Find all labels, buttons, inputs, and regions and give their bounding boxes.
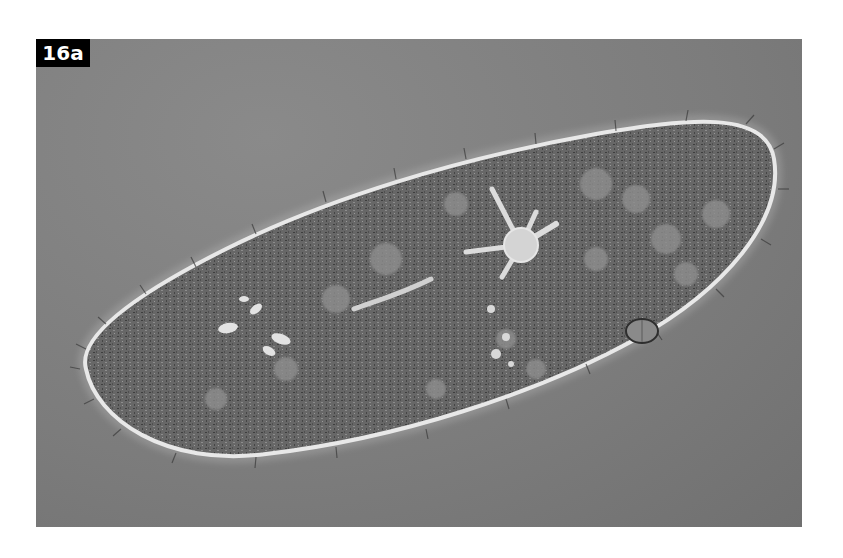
paramecium-illustration bbox=[36, 39, 802, 527]
figure-label: 16a bbox=[36, 39, 90, 67]
cell-body bbox=[85, 122, 775, 456]
micrograph-figure bbox=[36, 39, 802, 527]
